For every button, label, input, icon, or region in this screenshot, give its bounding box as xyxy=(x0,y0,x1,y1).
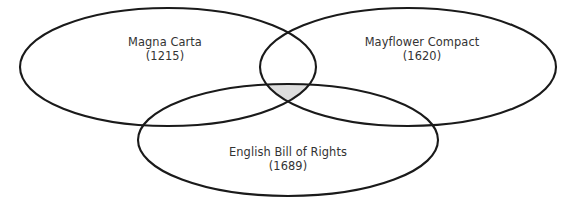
set-label-english-bill-of-rights: English Bill of Rights (1689) xyxy=(138,146,438,173)
set-label-english-bill-of-rights-name: English Bill of Rights xyxy=(138,146,438,160)
set-label-mayflower-compact-year: (1620) xyxy=(246,50,576,64)
venn-diagram-canvas xyxy=(0,0,576,214)
set-ellipse-mayflower-compact xyxy=(260,8,556,126)
set-label-english-bill-of-rights-year: (1689) xyxy=(138,160,438,174)
set-label-mayflower-compact-name: Mayflower Compact xyxy=(246,36,576,50)
set-label-mayflower-compact: Mayflower Compact (1620) xyxy=(246,36,576,63)
venn-diagram: Magna Carta (1215) Mayflower Compact (16… xyxy=(0,0,576,214)
set-ellipse-magna-carta xyxy=(20,8,316,126)
